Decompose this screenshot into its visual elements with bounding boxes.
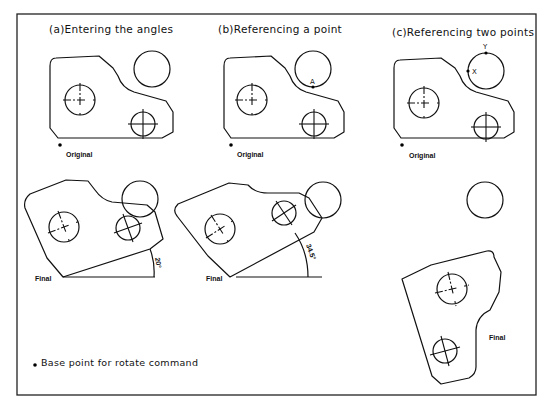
panel-a-final-label: Final	[35, 275, 51, 282]
panel-b-final-label: Final	[206, 275, 222, 282]
hole-cross-small	[272, 201, 296, 225]
panel-a-original	[50, 51, 173, 147]
hole-centerline-large	[205, 214, 235, 244]
panel-c-original	[394, 51, 514, 146]
legend-base-point-marker	[33, 363, 37, 367]
hole-centerline-large	[48, 211, 80, 243]
point-y-label: Y	[482, 43, 488, 51]
hole-centerline-large	[63, 83, 97, 117]
panel-a-original-label: Original	[66, 151, 93, 159]
hole-centerline-large	[435, 272, 469, 306]
panel-b-original-label: Original	[237, 151, 264, 159]
base-point-marker	[400, 143, 404, 147]
point-x-label: X	[472, 68, 477, 76]
hole-centerline-large	[235, 83, 269, 117]
angle-arc	[295, 233, 308, 277]
panel-a-title: (a)Entering the angles	[49, 23, 173, 35]
panel-b-original	[224, 51, 344, 147]
point-y-marker	[484, 51, 487, 54]
angle-label-20: 20°	[154, 257, 163, 269]
panel-b-final: 34.5°	[175, 182, 341, 277]
rotate-command-diagram: 20° 34.5° (a)	[0, 0, 550, 405]
hole-centerline-large	[407, 86, 441, 120]
panel-c-title: (c)Referencing two points	[392, 26, 534, 38]
panel-b-title: (b)Referencing a point	[218, 23, 342, 35]
base-point-marker	[229, 143, 233, 147]
loose-circle	[122, 181, 158, 217]
angle-label-34-5: 34.5°	[305, 243, 317, 261]
loose-circle	[134, 51, 170, 87]
hole-cross-small	[114, 214, 142, 242]
legend-text: Base point for rotate command	[41, 357, 198, 368]
loose-circle	[467, 182, 503, 218]
panel-c-original-label: Original	[409, 152, 436, 160]
panel-a-final: 20°	[25, 180, 163, 277]
hole-cross-small	[128, 109, 158, 139]
point-x-marker	[466, 69, 469, 72]
point-a-label: A	[310, 78, 315, 86]
base-point-marker	[58, 143, 62, 147]
hole-cross-small	[299, 109, 329, 139]
panel-c-final	[402, 182, 503, 384]
hole-cross-small	[430, 336, 460, 366]
diagram-frame	[17, 14, 536, 395]
angle-arc	[150, 249, 154, 277]
panel-c-final-label: Final	[489, 334, 505, 341]
